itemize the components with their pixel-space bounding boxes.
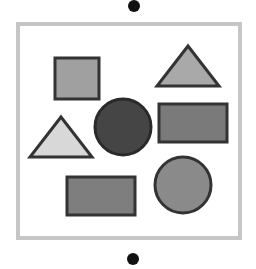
rectangle-right — [159, 104, 227, 142]
dark-circle — [95, 99, 151, 155]
shapes-diagram — [0, 0, 256, 269]
rectangle-bottom — [67, 177, 135, 215]
circle-bottom-right — [155, 157, 211, 213]
square-shape — [55, 58, 99, 99]
bottom-dot — [127, 253, 139, 265]
top-dot — [128, 0, 140, 12]
